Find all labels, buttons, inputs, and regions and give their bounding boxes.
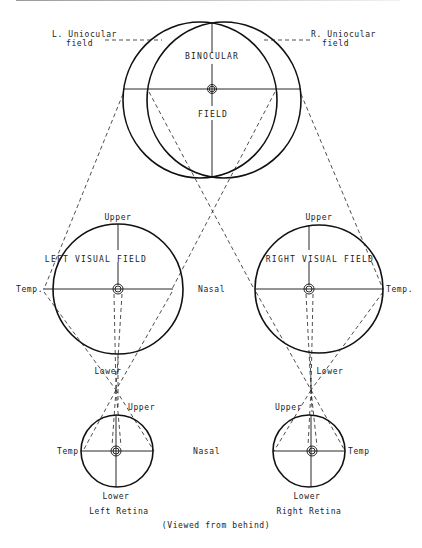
left-uniocular-label-2: field <box>66 39 93 48</box>
right-field-temporal-label: Temp. <box>386 285 413 294</box>
right-field-upper-label: Upper <box>305 213 332 222</box>
right-retina-temporal-label: Temp <box>348 447 370 456</box>
left-uniocular-label: L. Uniocular <box>52 30 117 39</box>
field-label: FIELD <box>198 110 228 119</box>
left-retina-temporal-label: Temp <box>57 447 79 456</box>
left-visual-field-group: Upper LEFT VISUAL FIELD Temp. Nasal Lowe… <box>16 213 225 410</box>
right-eye-field-circle <box>147 22 301 178</box>
right-field-title: RIGHT VISUAL FIELD <box>266 255 374 264</box>
figure-caption: (Viewed from behind) <box>162 521 270 530</box>
visual-pathway-diagram: L. Uniocular field R. Uniocular field BI… <box>0 0 422 548</box>
binocular-label: BINOCULAR <box>185 52 239 61</box>
retina-nasal-label: Nasal <box>193 447 220 456</box>
nasal-label: Nasal <box>198 285 225 294</box>
right-visual-field-group: Upper RIGHT VISUAL FIELD Temp. Lower <box>255 213 413 412</box>
right-field-lower-label: Lower <box>316 367 343 376</box>
left-field-title: LEFT VISUAL FIELD <box>45 255 147 264</box>
left-retina-upper-label: Upper <box>128 403 155 412</box>
right-retina-group: Upper Temp Lower Right Retina <box>273 390 370 516</box>
left-retina-lower-label: Lower <box>102 492 129 501</box>
right-retina-name: Right Retina <box>277 507 342 516</box>
left-eye-field-circle <box>123 22 277 178</box>
left-retina-group: Upper Temp Nasal Lower Left Retina <box>57 390 220 516</box>
binocular-field-group: L. Uniocular field R. Uniocular field BI… <box>52 22 376 178</box>
right-uniocular-label: R. Uniocular <box>311 30 376 39</box>
right-retina-lower-label: Lower <box>293 492 320 501</box>
left-field-temporal-label: Temp. <box>16 285 43 294</box>
left-field-upper-label: Upper <box>104 213 131 222</box>
right-uniocular-label-2: field <box>322 39 349 48</box>
right-retina-upper-label: Upper <box>275 403 302 412</box>
left-retina-name: Left Retina <box>89 507 149 516</box>
